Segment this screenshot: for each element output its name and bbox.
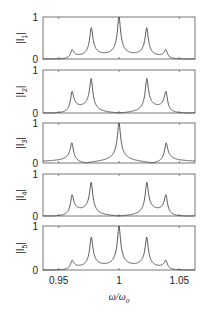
response-curve [43,79,195,113]
xtick-label: 0.95 [49,275,69,286]
ytick-label-0: 0 [32,158,38,169]
xtick-label: 1 [116,275,122,286]
axes-frame [43,17,195,59]
ylabel: |I5| [15,242,28,254]
ylabel: |I2| [15,86,28,98]
ytick-label-1: 1 [32,118,38,129]
ytick-label-1: 1 [32,12,38,23]
response-curve [43,123,195,163]
panel-5: 10|I5| [15,221,195,276]
ytick-label-1: 1 [32,221,38,232]
response-curve [43,182,195,216]
xtick-label: 1.05 [170,275,190,286]
stacked-resonance-chart: 10|I1|10|I2|10|I3|10|I4|10|I5|0.9511.05ω… [0,0,203,314]
ytick-label-1: 1 [32,65,38,76]
axes-frame [43,174,195,216]
panel-4: 10|I4| [15,169,195,222]
response-curve [43,226,195,270]
panel-2: 10|I2| [15,65,195,119]
ylabel: |I1| [15,32,28,44]
response-curve [43,17,195,59]
ylabel: |I3| [15,137,28,149]
axes-frame [43,70,195,113]
ytick-label-0: 0 [32,54,38,65]
panel-3: 10|I3| [15,118,195,169]
panel-1: 10|I1| [15,12,195,65]
axes-frame [43,226,195,270]
ylabel: |I4| [15,189,28,201]
xlabel: ω/ω0 [109,291,130,305]
ytick-label-0: 0 [32,265,38,276]
ytick-label-1: 1 [32,169,38,180]
